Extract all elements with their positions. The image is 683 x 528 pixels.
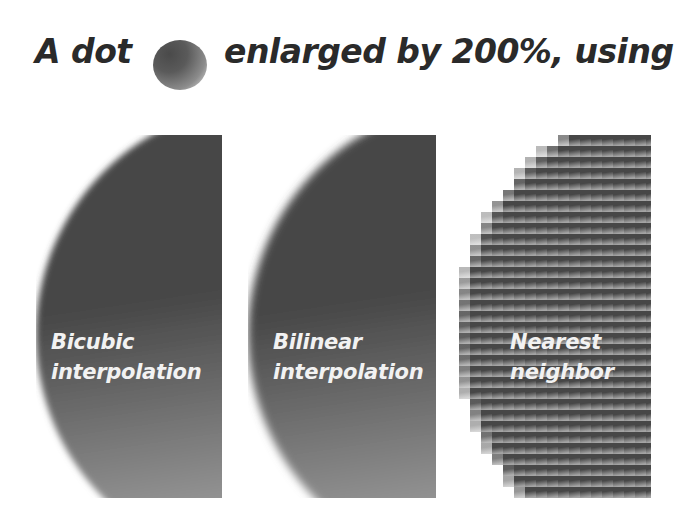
panel-nearest-neighbor: Nearest neighbor — [459, 135, 651, 498]
label-line-2: neighbor — [510, 357, 614, 387]
panel-label-bicubic: Bicubic interpolation — [51, 327, 201, 387]
label-line-2: interpolation — [273, 357, 423, 387]
enlarged-dot-bicubic — [36, 135, 222, 498]
label-line-1: Bilinear — [273, 327, 423, 357]
title-part-2: enlarged by 200%, using — [224, 32, 674, 71]
panel-label-bilinear: Bilinear interpolation — [273, 327, 423, 387]
sample-dot-icon — [153, 40, 207, 90]
title-part-1: A dot — [35, 32, 132, 71]
panel-label-nearest: Nearest neighbor — [510, 327, 614, 387]
label-line-1: Bicubic — [51, 327, 201, 357]
panel-bicubic: Bicubic interpolation — [36, 135, 222, 498]
label-line-1: Nearest — [510, 327, 614, 357]
panel-bilinear: Bilinear interpolation — [248, 135, 436, 498]
enlarged-dot-bilinear — [248, 135, 436, 498]
enlarged-dot-nearest — [459, 135, 651, 498]
label-line-2: interpolation — [51, 357, 201, 387]
figure-title: A dot enlarged by 200%, using — [0, 28, 683, 78]
